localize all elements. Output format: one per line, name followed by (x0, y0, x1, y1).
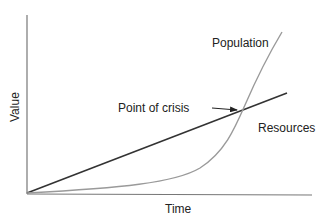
crisis-arrow (212, 108, 237, 110)
x-axis (27, 194, 312, 195)
resources-label: Resources (258, 121, 315, 135)
y-axis-label: Value (8, 92, 22, 122)
crisis-label: Point of crisis (118, 101, 189, 115)
crisis-diagram: Population Resources Point of crisis Tim… (0, 0, 325, 224)
x-axis-label: Time (165, 202, 192, 216)
population-label: Population (212, 36, 269, 50)
